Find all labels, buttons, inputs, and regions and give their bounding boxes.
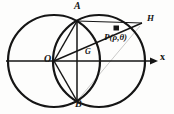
- label-point-p: P(ρ,θ): [104, 33, 127, 42]
- geometry-figure: A B O G H x P(ρ,θ): [0, 0, 174, 114]
- segment-ah: [77, 21, 142, 23]
- label-axis-x: x: [160, 52, 165, 62]
- label-origin: O: [44, 54, 51, 64]
- label-point-a: A: [74, 1, 81, 11]
- label-point-g: G: [85, 48, 91, 56]
- x-axis-arrowhead: [150, 58, 158, 65]
- label-point-b: B: [75, 99, 82, 109]
- label-point-h: H: [147, 14, 154, 23]
- point-p-marker: [114, 26, 120, 31]
